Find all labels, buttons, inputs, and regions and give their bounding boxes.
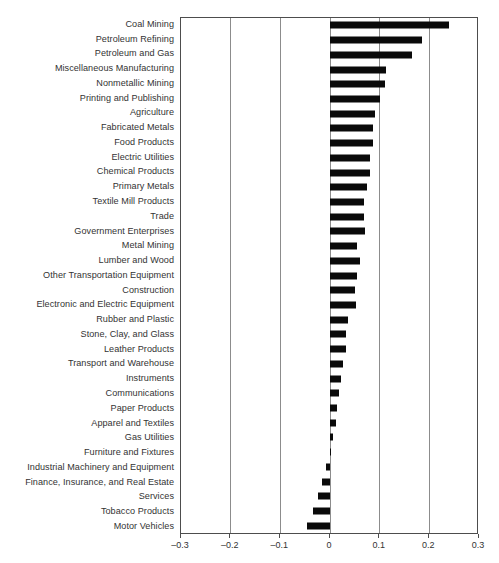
category-label: Petroleum Refining <box>0 32 174 47</box>
bar <box>330 51 412 58</box>
category-label: Textile Mill Products <box>0 194 174 209</box>
bar <box>330 405 337 412</box>
bar-row <box>181 18 477 33</box>
bar-row <box>181 445 477 460</box>
x-tick-label: 0 <box>326 540 331 550</box>
category-label: Instruments <box>0 371 174 386</box>
bar-row <box>181 504 477 519</box>
bar-row <box>181 239 477 254</box>
x-tick-label: 0.2 <box>422 540 435 550</box>
x-tick-label: –0.3 <box>171 540 189 550</box>
x-tick-mark <box>428 534 429 538</box>
bar <box>330 346 346 353</box>
x-tick-mark <box>329 534 330 538</box>
category-label: Lumber and Wood <box>0 253 174 268</box>
category-label: Leather Products <box>0 342 174 357</box>
bar-row <box>181 312 477 327</box>
bar-row <box>181 386 477 401</box>
category-label: Tobacco Products <box>0 504 174 519</box>
category-label: Paper Products <box>0 401 174 416</box>
bar-row <box>181 33 477 48</box>
category-label: Finance, Insurance, and Real Estate <box>0 475 174 490</box>
bars-layer <box>181 18 477 533</box>
category-label: Furniture and Fixtures <box>0 445 174 460</box>
category-label: Communications <box>0 386 174 401</box>
bar-row <box>181 254 477 269</box>
category-label: Chemical Products <box>0 165 174 180</box>
x-tick-mark <box>478 534 479 538</box>
category-axis-labels: Coal MiningPetroleum RefiningPetroleum a… <box>0 17 174 534</box>
category-label: Food Products <box>0 135 174 150</box>
bar <box>330 213 364 220</box>
bar-row <box>181 195 477 210</box>
category-label: Nonmetallic Mining <box>0 76 174 91</box>
category-label: Government Enterprises <box>0 224 174 239</box>
bar <box>330 37 422 44</box>
bar-row <box>181 327 477 342</box>
bar <box>307 522 330 529</box>
bar <box>330 95 380 102</box>
bar-row <box>181 106 477 121</box>
bar-row <box>181 430 477 445</box>
x-tick-label: –0.2 <box>221 540 239 550</box>
bar <box>330 375 341 382</box>
bar-row <box>181 209 477 224</box>
category-label: Services <box>0 490 174 505</box>
bar <box>330 243 357 250</box>
bar-row <box>181 415 477 430</box>
bar-row <box>181 283 477 298</box>
bar <box>330 419 336 426</box>
bar <box>330 140 373 147</box>
bar <box>330 390 339 397</box>
category-label: Rubber and Plastic <box>0 312 174 327</box>
bar-row <box>181 357 477 372</box>
x-axis: –0.3–0.2–0.100.10.20.3 <box>180 534 478 558</box>
bar-row <box>181 518 477 533</box>
category-label: Printing and Publishing <box>0 91 174 106</box>
bar <box>318 493 330 500</box>
x-tick-mark <box>180 534 181 538</box>
bar <box>330 316 348 323</box>
x-tick-mark <box>378 534 379 538</box>
category-label: Fabricated Metals <box>0 120 174 135</box>
category-label: Primary Metals <box>0 179 174 194</box>
category-label: Electronic and Electric Equipment <box>0 298 174 313</box>
category-label: Electric Utilities <box>0 150 174 165</box>
category-label: Trade <box>0 209 174 224</box>
category-label: Motor Vehicles <box>0 519 174 534</box>
bar-row <box>181 136 477 151</box>
bar <box>330 287 355 294</box>
category-label: Transport and Warehouse <box>0 357 174 372</box>
x-tick-label: 0.1 <box>372 540 385 550</box>
bar-row <box>181 371 477 386</box>
bar-row <box>181 298 477 313</box>
category-label: Stone, Clay, and Glass <box>0 327 174 342</box>
category-label: Construction <box>0 283 174 298</box>
bar <box>330 331 346 338</box>
category-label: Apparel and Textiles <box>0 416 174 431</box>
plot-area <box>180 17 478 534</box>
category-label: Coal Mining <box>0 17 174 32</box>
x-tick-label: 0.3 <box>472 540 485 550</box>
bar <box>330 125 373 132</box>
bar-row <box>181 47 477 62</box>
horizontal-bar-chart: Coal MiningPetroleum RefiningPetroleum a… <box>0 0 499 563</box>
bar <box>330 302 356 309</box>
bar-row <box>181 268 477 283</box>
bar <box>326 463 330 470</box>
bar-row <box>181 150 477 165</box>
bar-row <box>181 62 477 77</box>
bar <box>330 81 385 88</box>
bar-row <box>181 342 477 357</box>
bar <box>330 66 386 73</box>
bar-row <box>181 77 477 92</box>
bar-row <box>181 92 477 107</box>
bar <box>330 434 333 441</box>
x-tick-label: –0.1 <box>271 540 289 550</box>
x-tick-mark <box>279 534 280 538</box>
bar <box>330 154 370 161</box>
bar-row <box>181 121 477 136</box>
bar <box>330 198 364 205</box>
bar <box>330 169 370 176</box>
bar <box>330 110 375 117</box>
